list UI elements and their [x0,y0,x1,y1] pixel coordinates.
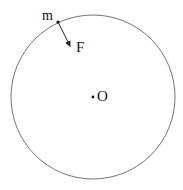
center-label: O [97,89,108,104]
force-label: F [76,40,84,55]
force-arrow [58,22,70,46]
center-point [92,96,95,99]
mass-label: m [42,9,53,23]
circular-orbit-diagram [0,0,183,190]
